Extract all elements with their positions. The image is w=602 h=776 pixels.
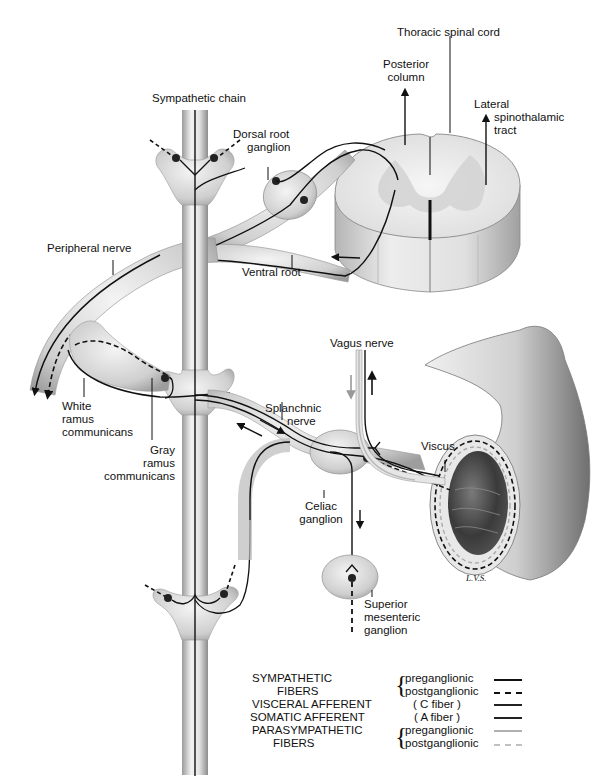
legend-symp-pre: preganglionic: [405, 672, 473, 685]
label-white-line2: ramus: [62, 413, 133, 426]
label-dorsal-root-ganglion: Dorsal root ganglion: [233, 128, 290, 154]
legend-swatch-visceral: [494, 704, 522, 706]
label-ventral-root: Ventral root: [242, 266, 301, 279]
legend-visceral-label: VISCERAL AFFERENT: [252, 698, 372, 711]
label-white-line1: White: [62, 400, 133, 413]
label-gray-line3: communicans: [97, 470, 175, 483]
legend-somatic-label: SOMATIC AFFERENT: [250, 711, 365, 724]
label-dorsal-root-line2: ganglion: [233, 141, 290, 154]
label-thoracic-spinal-cord: Thoracic spinal cord: [397, 26, 500, 39]
artist-signature: L.V.S.: [466, 572, 487, 585]
label-viscus: Viscus: [421, 440, 455, 453]
label-celiac-line2: ganglion: [293, 513, 349, 526]
legend-visceral-type: ( C fiber ): [413, 698, 461, 711]
label-lateral-line1: Lateral: [474, 98, 564, 111]
label-white-ramus-communicans: White ramus communicans: [62, 400, 133, 439]
label-sympathetic-chain: Sympathetic chain: [152, 92, 246, 105]
splanchnic-nerve: [195, 390, 450, 578]
legend-swatch-para-post: [494, 744, 522, 746]
label-white-line3: communicans: [62, 426, 133, 439]
viscus-organ: [425, 326, 590, 580]
label-splanchnic-line1: Splanchnic: [265, 402, 321, 415]
legend-parasympathetic-label2: FIBERS: [273, 737, 315, 750]
label-supmes-line1: Superior: [364, 598, 420, 611]
legend-para-post: postganglionic: [405, 737, 479, 750]
legend-swatch-para-pre: [494, 730, 522, 732]
label-celiac-ganglion: Celiac ganglion: [293, 500, 349, 526]
label-peripheral-nerve: Peripheral nerve: [47, 242, 131, 255]
legend-swatch-somatic: [494, 717, 522, 719]
legend-parasympathetic-label: PARASYMPATHETIC: [252, 724, 363, 737]
legend-swatch-symp-pre: [494, 679, 522, 681]
label-supmes-line2: mesenteric: [364, 611, 420, 624]
label-lateral-line2: spinothalamic: [474, 111, 564, 124]
label-gray-ramus-communicans: Gray ramus communicans: [97, 444, 175, 483]
label-vagus-nerve: Vagus nerve: [330, 337, 394, 350]
label-supmes-line3: ganglion: [364, 624, 420, 637]
label-lateral-spinothalamic: Lateral spinothalamic tract: [474, 98, 564, 137]
label-posterior-column-line1: Posterior: [378, 58, 434, 71]
label-dorsal-root-line1: Dorsal root: [233, 128, 290, 141]
legend-somatic-type: ( A fiber ): [414, 711, 460, 724]
legend-sympathetic-label: SYMPATHETIC: [252, 672, 332, 685]
label-gray-line2: ramus: [97, 457, 175, 470]
sympathetic-chain: [145, 110, 250, 776]
label-posterior-column: Posterior column: [378, 58, 434, 84]
label-superior-mesenteric-ganglion: Superior mesenteric ganglion: [364, 598, 420, 637]
legend-swatch-symp-post: [494, 692, 522, 694]
label-splanchnic-nerve: Splanchnic nerve: [265, 402, 321, 428]
legend-sympathetic-label2: FIBERS: [277, 685, 319, 698]
label-splanchnic-line2: nerve: [265, 415, 321, 428]
legend-symp-post: postganglionic: [405, 685, 479, 698]
label-posterior-column-line2: column: [378, 71, 434, 84]
label-lateral-line3: tract: [474, 124, 564, 137]
label-celiac-line1: Celiac: [293, 500, 349, 513]
label-gray-line1: Gray: [97, 444, 175, 457]
thoracic-spinal-cord: [335, 134, 520, 292]
legend-para-pre: preganglionic: [405, 724, 473, 737]
